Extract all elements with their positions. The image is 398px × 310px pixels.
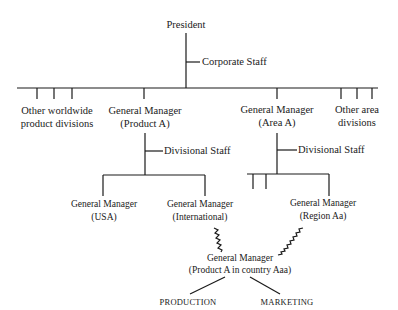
- other-product-divisions-label-line1: Other worldwide: [12, 104, 102, 117]
- marketing-label: MARKETING: [252, 296, 322, 309]
- gm-country-label-line2: (Product A in country Aaa): [170, 264, 310, 277]
- gm-international-label-line2: (International): [160, 211, 240, 224]
- gm-product-a-label-line2: (Product A): [102, 117, 188, 130]
- divisional-staff-product-label: Divisional Staff: [164, 144, 231, 157]
- other-area-divisions-label-line2: divisions: [325, 116, 389, 129]
- production-label: PRODUCTION: [148, 296, 228, 309]
- gm-region-aa-label-line2: (Region Aa): [283, 210, 363, 223]
- other-product-divisions-label-line2: product divisions: [12, 117, 102, 130]
- org-chart: President Corporate Staff Other worldwid…: [0, 0, 398, 310]
- gm-international-label-line1: General Manager: [160, 198, 240, 211]
- gm-region-aa-label-line1: General Manager: [283, 197, 363, 210]
- gm-product-a-label-line1: General Manager: [102, 104, 188, 117]
- president-label: President: [163, 18, 209, 31]
- gm-area-a-label-line2: (Area A): [229, 116, 325, 129]
- gm-area-a-label-line1: General Manager: [229, 103, 325, 116]
- corporate-staff-label: Corporate Staff: [202, 55, 267, 68]
- other-area-divisions-label-line1: Other area: [325, 103, 389, 116]
- divisional-staff-area-label: Divisional Staff: [298, 143, 365, 156]
- gm-usa-label-line2: (USA): [64, 211, 144, 224]
- gm-usa-label-line1: General Manager: [64, 198, 144, 211]
